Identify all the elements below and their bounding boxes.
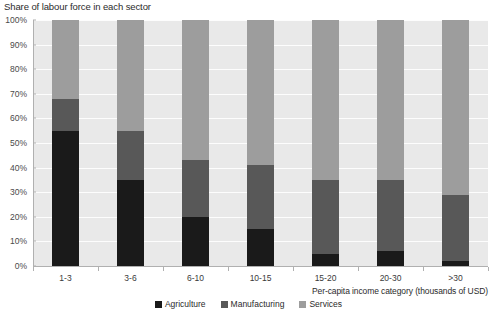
bar-segment-manufacturing[interactable]: [312, 180, 339, 254]
y-axis-tick-label: 40%: [10, 163, 27, 173]
y-axis-tick-label: 0%: [15, 261, 27, 271]
bar-segment-services[interactable]: [247, 20, 274, 165]
legend-item-manufacturing[interactable]: Manufacturing: [221, 299, 285, 309]
y-axis-tick-mark: [33, 69, 36, 70]
bar-segment-services[interactable]: [52, 20, 79, 99]
y-axis-tick-label: 10%: [10, 236, 27, 246]
x-axis-tick-mark: [358, 267, 359, 271]
bar-segment-agriculture[interactable]: [52, 131, 79, 266]
bar-segment-manufacturing[interactable]: [377, 180, 404, 251]
x-axis-label: 1-3: [59, 273, 71, 283]
chart-root: Share of labour force in each sector 0%1…: [0, 0, 497, 318]
legend-label: Services: [309, 299, 342, 309]
x-axis-tick-mark: [423, 267, 424, 271]
x-axis-tick-mark: [163, 267, 164, 271]
y-axis-tick-mark: [33, 143, 36, 144]
bar-segment-agriculture[interactable]: [182, 217, 209, 266]
chart-legend: AgricultureManufacturingServices: [0, 299, 497, 309]
legend-item-services[interactable]: Services: [299, 299, 342, 309]
x-axis-labels: 1-33-66-1010-1515-2020-30>30: [33, 273, 488, 287]
bar-stack[interactable]: [52, 20, 79, 266]
x-axis-label: 15-20: [315, 273, 337, 283]
bar-segment-manufacturing[interactable]: [117, 131, 144, 180]
y-axis-tick-mark: [33, 44, 36, 45]
x-axis-label: 3-6: [124, 273, 136, 283]
bar-segment-services[interactable]: [182, 20, 209, 160]
bar-segment-services[interactable]: [442, 20, 469, 195]
x-axis-tick-mark: [33, 267, 34, 271]
bar-segment-manufacturing[interactable]: [52, 99, 79, 131]
y-axis-tick-label: 70%: [10, 89, 27, 99]
y-axis-tick-label: 20%: [10, 212, 27, 222]
y-axis-tick-label: 30%: [10, 187, 27, 197]
chart-title: Share of labour force in each sector: [4, 1, 151, 12]
bar-segment-services[interactable]: [117, 20, 144, 131]
legend-label: Manufacturing: [231, 299, 285, 309]
y-axis-tick-label: 50%: [10, 138, 27, 148]
y-axis-tick-label: 80%: [10, 64, 27, 74]
y-axis-tick-label: 90%: [10, 40, 27, 50]
bar-stack[interactable]: [312, 20, 339, 266]
x-axis-tick-mark: [98, 267, 99, 271]
bar-stack[interactable]: [182, 20, 209, 266]
x-axis-title: Per-capita income category (thousands of…: [312, 286, 488, 296]
bar-segment-services[interactable]: [312, 20, 339, 180]
legend-swatch-icon: [155, 301, 162, 308]
legend-item-agriculture[interactable]: Agriculture: [155, 299, 206, 309]
x-axis-tick-mark: [488, 267, 489, 271]
plot-area: [33, 20, 488, 266]
y-axis-tick-mark: [33, 20, 36, 21]
y-axis-line: [33, 20, 34, 267]
bar-segment-agriculture[interactable]: [117, 180, 144, 266]
bar-segment-agriculture[interactable]: [247, 229, 274, 266]
y-axis-ticks: 0%10%20%30%40%50%60%70%80%90%100%: [0, 20, 33, 266]
x-axis-label: 20-30: [380, 273, 402, 283]
x-axis-tick-mark: [293, 267, 294, 271]
bar-segment-services[interactable]: [377, 20, 404, 180]
y-axis-tick-mark: [33, 167, 36, 168]
x-axis-label: 10-15: [250, 273, 272, 283]
y-axis-tick-mark: [33, 216, 36, 217]
bar-segment-agriculture[interactable]: [312, 254, 339, 266]
bar-stack[interactable]: [442, 20, 469, 266]
bar-stack[interactable]: [117, 20, 144, 266]
y-axis-tick-mark: [33, 192, 36, 193]
legend-swatch-icon: [221, 301, 228, 308]
legend-swatch-icon: [299, 301, 306, 308]
bar-segment-manufacturing[interactable]: [182, 160, 209, 217]
y-axis-tick-mark: [33, 93, 36, 94]
legend-label: Agriculture: [165, 299, 206, 309]
y-axis-tick-mark: [33, 241, 36, 242]
bar-segment-manufacturing[interactable]: [442, 195, 469, 261]
y-axis-tick-label: 100%: [5, 15, 27, 25]
x-axis-tick-mark: [228, 267, 229, 271]
bar-segment-agriculture[interactable]: [377, 251, 404, 266]
y-axis-tick-mark: [33, 118, 36, 119]
x-axis-line: [33, 266, 488, 267]
x-axis-label: 6-10: [187, 273, 204, 283]
y-axis-tick-label: 60%: [10, 113, 27, 123]
bar-stack[interactable]: [377, 20, 404, 266]
x-axis-label: >30: [448, 273, 462, 283]
bar-stack[interactable]: [247, 20, 274, 266]
bar-segment-manufacturing[interactable]: [247, 165, 274, 229]
